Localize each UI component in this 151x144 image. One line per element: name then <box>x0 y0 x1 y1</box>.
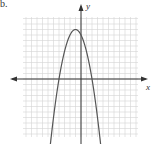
x-axis <box>10 77 148 82</box>
x-axis-left-arrow-icon <box>10 77 17 82</box>
x-axis-right-arrow-icon <box>141 77 148 82</box>
y-axis-arrow-icon <box>79 4 84 11</box>
parabola-chart: y x <box>0 0 151 144</box>
x-axis-label: x <box>145 82 150 92</box>
y-axis-label: y <box>85 1 90 11</box>
